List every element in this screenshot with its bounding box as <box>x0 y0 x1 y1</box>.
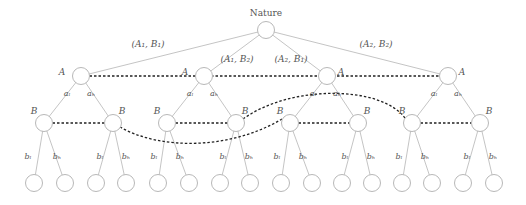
player-b-label: B <box>30 106 38 116</box>
player-a-label: A <box>58 67 66 77</box>
action-edge-bl <box>34 123 44 183</box>
terminal-node <box>118 175 135 192</box>
terminal-node <box>424 175 441 192</box>
nature-label: Nature <box>250 8 282 18</box>
action-ah-label: aₕ <box>210 89 218 98</box>
player-a-label: A <box>181 67 189 77</box>
action-al-label: aₗ <box>310 89 317 98</box>
player-b-label: B <box>153 106 161 116</box>
player-b-node <box>282 115 299 132</box>
action-al-label: aₗ <box>64 89 71 98</box>
player-a-label: A <box>458 67 466 77</box>
player-a-node <box>196 68 213 85</box>
action-al-label: aₗ <box>431 89 438 98</box>
action-bl-label: bₗ <box>96 152 103 161</box>
terminal-node <box>304 175 321 192</box>
player-a-node <box>73 68 90 85</box>
action-bl-label: bₗ <box>150 152 157 161</box>
action-ah-label: aₕ <box>333 89 341 98</box>
action-bl-label: bₗ <box>463 152 470 161</box>
player-b-label: B <box>118 106 126 116</box>
action-bh-label: bₕ <box>53 152 62 161</box>
terminal-node <box>242 175 259 192</box>
player-b-node <box>105 115 122 132</box>
terminal-node <box>212 175 229 192</box>
terminal-node <box>88 175 105 192</box>
player-b-node <box>472 115 489 132</box>
info-set-b-curve-upper <box>243 93 405 119</box>
action-al-label: aₗ <box>187 89 194 98</box>
action-bh-label: bₕ <box>122 152 131 161</box>
action-ah-label: aₕ <box>454 89 462 98</box>
player-b-label: B <box>363 106 371 116</box>
player-a-node <box>440 68 457 85</box>
nature-branch-edge <box>266 30 448 76</box>
player-b-node <box>350 115 367 132</box>
action-bh-label: bₕ <box>367 152 376 161</box>
nature-branch-label: (A₁, B₂) <box>220 54 254 64</box>
player-b-label: B <box>398 106 406 116</box>
terminal-node <box>26 175 43 192</box>
nature-branch-label: (A₂, B₂) <box>359 39 393 49</box>
nature-branch-label: (A₁, B₁) <box>131 39 165 49</box>
nature-branch-edge <box>81 30 266 76</box>
terminal-node <box>334 175 351 192</box>
action-bh-label: bₕ <box>421 152 430 161</box>
action-bh-label: bₕ <box>299 152 308 161</box>
terminal-node <box>150 175 167 192</box>
action-bh-label: bₕ <box>176 152 185 161</box>
terminal-node <box>455 175 472 192</box>
player-b-node <box>159 115 176 132</box>
terminal-node <box>486 175 503 192</box>
player-b-node <box>228 115 245 132</box>
terminal-node <box>394 175 411 192</box>
player-b-label: B <box>485 106 493 116</box>
action-bl-label: bₗ <box>219 152 226 161</box>
action-bl-label: bₗ <box>273 152 280 161</box>
action-ah-label: aₕ <box>87 89 95 98</box>
player-b-node <box>404 115 421 132</box>
terminal-node <box>57 175 74 192</box>
nature-branch-edge <box>204 30 266 76</box>
nature-branch-edge <box>266 30 327 76</box>
player-a-node <box>319 68 336 85</box>
player-a-label: A <box>337 67 345 77</box>
action-bh-label: bₕ <box>489 152 498 161</box>
info-set-b-curve-lower <box>120 119 282 143</box>
terminal-node <box>364 175 381 192</box>
player-b-label: B <box>276 106 284 116</box>
action-bl-label: bₗ <box>24 152 31 161</box>
nature-branch-label: (A₂, B₁) <box>274 54 308 64</box>
game-tree-diagram: Nature(A₁, B₁)(A₁, B₂)(A₂, B₁)(A₂, B₂)Aa… <box>0 0 526 205</box>
action-bl-label: bₗ <box>395 152 402 161</box>
player-b-node <box>36 115 53 132</box>
player-b-label: B <box>241 106 249 116</box>
action-edge-bl <box>402 123 412 183</box>
terminal-node <box>273 175 290 192</box>
action-bh-label: bₕ <box>245 152 254 161</box>
action-edge-bl <box>281 123 290 183</box>
terminal-node <box>181 175 198 192</box>
action-bl-label: bₗ <box>341 152 348 161</box>
nature-node <box>258 22 275 39</box>
action-edge-bl <box>158 123 167 183</box>
